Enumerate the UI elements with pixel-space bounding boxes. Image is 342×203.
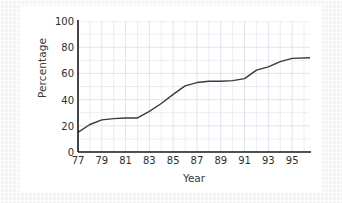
figure-canvas: 020406080100 77798183858789919395 Percen… <box>20 6 322 192</box>
y-axis-title: Percentage <box>36 18 48 118</box>
y-tick-label: 20 <box>48 120 74 131</box>
x-tick-label: 77 <box>72 155 85 166</box>
y-tick-label: 40 <box>48 94 74 105</box>
x-axis-title: Year <box>78 172 310 184</box>
chart-page: 020406080100 77798183858789919395 Percen… <box>0 0 342 203</box>
y-tick-label: 0 <box>48 147 74 158</box>
x-tick-label: 85 <box>167 155 180 166</box>
x-tick-label: 93 <box>262 155 275 166</box>
x-tick-labels: 77798183858789919395 <box>78 155 310 171</box>
x-tick-label: 83 <box>143 155 156 166</box>
x-tick-label: 79 <box>95 155 108 166</box>
y-tick-label: 60 <box>48 68 74 79</box>
x-tick-label: 95 <box>286 155 299 166</box>
x-tick-label: 87 <box>191 155 204 166</box>
x-tick-label: 89 <box>214 155 227 166</box>
x-tick-label: 91 <box>238 155 251 166</box>
y-tick-label: 80 <box>48 42 74 53</box>
x-tick-label: 81 <box>119 155 132 166</box>
y-tick-label: 100 <box>48 16 74 27</box>
